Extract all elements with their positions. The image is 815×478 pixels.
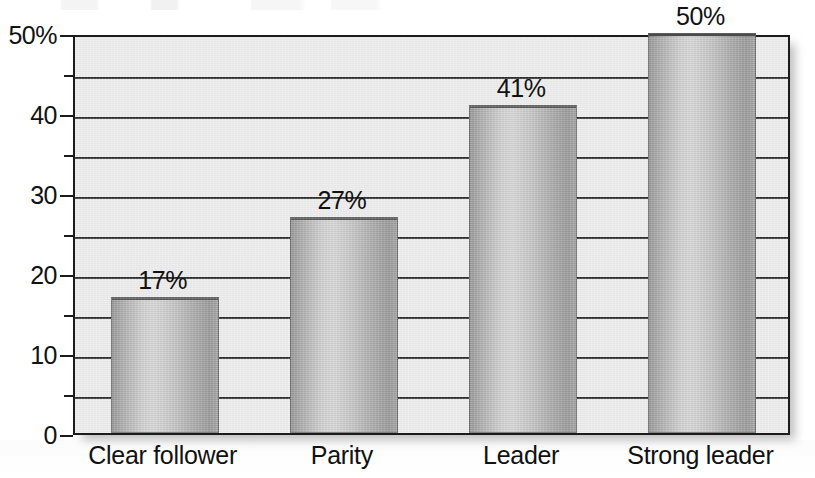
y-axis-tick-0	[60, 435, 73, 437]
bar-chart: 01020304050% 17%27%41%50% Clear follower…	[0, 0, 815, 478]
bar-top-edge	[470, 106, 576, 108]
value-label-parity: 27%	[318, 186, 367, 215]
y-axis-label-30: 30	[30, 181, 57, 210]
y-axis-label-40: 40	[30, 101, 57, 130]
bar-parity	[290, 217, 398, 433]
y-axis-tick-10	[60, 355, 73, 357]
y-axis-label-0: 0	[44, 421, 57, 450]
y-axis-tick-15	[64, 315, 73, 317]
bar-strong-leader	[648, 33, 756, 433]
y-axis-label-20: 20	[30, 261, 57, 290]
bar-clear-follower	[111, 297, 219, 433]
bar-top-edge	[649, 34, 755, 36]
bar-leader	[469, 105, 577, 433]
y-axis-label-50: 50%	[8, 21, 57, 50]
y-axis-tick-5	[64, 395, 73, 397]
y-axis-tick-20	[60, 275, 73, 277]
category-label-parity: Parity	[311, 441, 373, 470]
y-axis-tick-45	[64, 75, 73, 77]
value-label-strong-leader: 50%	[676, 2, 725, 31]
category-label-strong-leader: Strong leader	[627, 441, 773, 470]
bar-series	[75, 37, 788, 433]
bar-top-edge	[291, 218, 397, 220]
value-label-leader: 41%	[497, 74, 546, 103]
y-axis-tick-30	[60, 195, 73, 197]
x-axis-category-labels: Clear followerParityLeaderStrong leader	[73, 441, 790, 475]
category-label-clear-follower: Clear follower	[88, 441, 237, 470]
y-axis-tick-35	[64, 155, 73, 157]
y-axis-label-10: 10	[30, 341, 57, 370]
plot-area	[73, 35, 790, 435]
y-axis-tick-40	[60, 115, 73, 117]
value-label-clear-follower: 17%	[138, 266, 187, 295]
category-label-leader: Leader	[483, 441, 559, 470]
bar-top-edge	[112, 298, 218, 300]
y-axis: 01020304050%	[0, 35, 73, 435]
y-axis-tick-50	[60, 35, 73, 37]
y-axis-tick-25	[64, 235, 73, 237]
